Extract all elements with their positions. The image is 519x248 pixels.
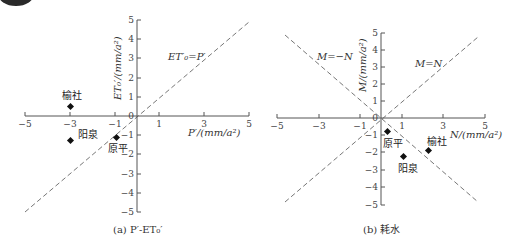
svg-text:4: 4 <box>372 45 378 55</box>
svg-text:−5: −5 <box>270 121 284 131</box>
svg-text:1: 1 <box>128 92 134 102</box>
svg-text:−3: −3 <box>365 165 379 175</box>
svg-text:0: 0 <box>372 113 378 123</box>
caption-b: (b) 耗水 <box>363 224 400 235</box>
svg-text:−3: −3 <box>63 119 77 129</box>
svg-text:3: 3 <box>440 121 446 131</box>
corner-decoration <box>0 0 34 6</box>
x-axis-label-a: P′/(mm/a²) <box>187 127 241 138</box>
panel-a: −5 −3 −1 1 3 5 5 4 3 2 1 0 −1 <box>18 15 252 235</box>
svg-text:−1: −1 <box>121 130 134 140</box>
y-axis-label-b: M/(mm/a²) <box>357 38 368 93</box>
x-axis-label-b: N/(mm/a²) <box>449 129 502 140</box>
svg-text:−5: −5 <box>121 207 135 217</box>
point-label-yangquan-b: 阳泉 <box>398 162 418 174</box>
svg-text:−1: −1 <box>108 119 121 129</box>
svg-text:4: 4 <box>128 34 134 44</box>
reference-line-label-pos: M=N <box>414 58 444 69</box>
panel-b: −5 −3 −1 1 3 5 5 4 3 2 1 0 −1 <box>270 28 502 235</box>
point-label-yangquan-a: 阳泉 <box>78 128 98 140</box>
svg-text:5: 5 <box>246 119 252 129</box>
point-yangquan-a <box>67 137 74 144</box>
svg-text:−3: −3 <box>312 121 326 131</box>
point-label-yuanping-b: 原平 <box>383 138 403 149</box>
svg-text:−5: −5 <box>18 119 32 129</box>
caption-a: (a) P′-ET₀′ <box>113 224 163 235</box>
svg-text:−3: −3 <box>121 169 135 179</box>
point-yuanping-a <box>113 134 120 141</box>
point-yushe-a <box>67 103 74 110</box>
point-yuanping-b <box>384 128 391 135</box>
svg-text:−2: −2 <box>365 147 378 157</box>
reference-line-label-a: ET′₀=P′ <box>167 51 206 62</box>
reference-line-label-neg: M=−N <box>316 51 354 62</box>
svg-text:−4: −4 <box>121 188 135 198</box>
y-axis-label-a: ET₀′/(mm/a²) <box>112 36 123 101</box>
point-yushe-b <box>425 147 432 154</box>
svg-text:3: 3 <box>372 62 378 72</box>
svg-text:−1: −1 <box>365 130 378 140</box>
svg-text:2: 2 <box>128 73 134 83</box>
svg-text:−4: −4 <box>365 182 379 192</box>
svg-text:0: 0 <box>128 111 134 121</box>
svg-text:5: 5 <box>372 28 378 38</box>
svg-text:2: 2 <box>372 79 378 89</box>
svg-text:5: 5 <box>128 15 134 25</box>
svg-text:3: 3 <box>128 53 134 63</box>
svg-text:1: 1 <box>156 119 162 129</box>
svg-text:−5: −5 <box>365 200 379 210</box>
point-label-yushe-b: 榆社 <box>427 135 447 147</box>
svg-text:1: 1 <box>399 121 405 131</box>
svg-text:1: 1 <box>372 96 378 106</box>
point-yangquan-b <box>400 153 407 160</box>
point-label-yuanping-a: 原平 <box>108 143 128 154</box>
figure: −5 −3 −1 1 3 5 5 4 3 2 1 0 −1 <box>0 0 519 248</box>
point-label-yushe-a: 榆社 <box>62 89 82 101</box>
